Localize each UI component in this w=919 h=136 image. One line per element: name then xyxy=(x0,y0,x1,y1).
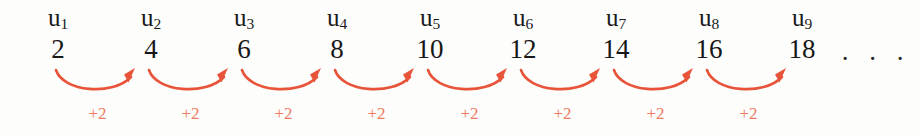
term-label-base: u xyxy=(234,4,247,31)
step-arrow-icon xyxy=(144,66,237,102)
sequence-step: +2 xyxy=(51,66,144,136)
term-label: u6 xyxy=(483,0,563,30)
step-arrow-icon xyxy=(237,66,330,102)
term-label-index: 4 xyxy=(339,15,347,32)
step-label: +2 xyxy=(702,104,795,124)
step-label: +2 xyxy=(144,104,237,124)
ellipsis: . . . xyxy=(836,36,916,67)
term-value: 2 xyxy=(18,30,98,63)
sequence-term: u816 xyxy=(669,0,749,63)
term-value: 8 xyxy=(297,30,377,63)
term-label-index: 6 xyxy=(525,15,533,32)
step-arrow-icon xyxy=(516,66,609,102)
sequence-step: +2 xyxy=(237,66,330,136)
term-value: 10 xyxy=(390,30,470,63)
term-label-base: u xyxy=(699,4,712,31)
step-arrow-icon xyxy=(702,66,795,102)
sequence-step: +2 xyxy=(144,66,237,136)
sequence-term: u714 xyxy=(576,0,656,63)
term-label: u3 xyxy=(204,0,284,30)
step-arrow-icon xyxy=(51,66,144,102)
step-arrow-icon xyxy=(423,66,516,102)
term-label: u7 xyxy=(576,0,656,30)
step-arrow-icon xyxy=(609,66,702,102)
term-value: 6 xyxy=(204,30,284,63)
term-label-base: u xyxy=(420,4,433,31)
term-label: u5 xyxy=(390,0,470,30)
term-label: u4 xyxy=(297,0,377,30)
sequence-term: u48 xyxy=(297,0,377,63)
sequence-step: +2 xyxy=(330,66,423,136)
step-label: +2 xyxy=(51,104,144,124)
sequence-term: u12 xyxy=(18,0,98,63)
term-label-index: 1 xyxy=(60,15,68,32)
term-label-index: 3 xyxy=(246,15,254,32)
term-label-base: u xyxy=(513,4,526,31)
term-label-index: 9 xyxy=(804,15,812,32)
sequence-step: +2 xyxy=(516,66,609,136)
term-label-index: 2 xyxy=(153,15,161,32)
sequence-step: +2 xyxy=(702,66,795,136)
sequence-step: +2 xyxy=(609,66,702,136)
term-label-base: u xyxy=(327,4,340,31)
term-label: u2 xyxy=(111,0,191,30)
term-label-index: 5 xyxy=(432,15,440,32)
term-value: 18 xyxy=(762,30,842,63)
term-label: u9 xyxy=(762,0,842,30)
term-value: 16 xyxy=(669,30,749,63)
term-value: 14 xyxy=(576,30,656,63)
term-label-base: u xyxy=(48,4,61,31)
step-label: +2 xyxy=(423,104,516,124)
term-label-base: u xyxy=(141,4,154,31)
term-label-base: u xyxy=(792,4,805,31)
term-label-index: 7 xyxy=(618,15,626,32)
sequence-term: u36 xyxy=(204,0,284,63)
term-label: u8 xyxy=(669,0,749,30)
step-label: +2 xyxy=(330,104,423,124)
step-label: +2 xyxy=(609,104,702,124)
sequence-diagram: u12u24u36u48u510u612u714u816u918. . .+2+… xyxy=(0,0,919,136)
step-label: +2 xyxy=(516,104,609,124)
sequence-term: u612 xyxy=(483,0,563,63)
sequence-term: u510 xyxy=(390,0,470,63)
sequence-term: u918 xyxy=(762,0,842,63)
term-label: u1 xyxy=(18,0,98,30)
sequence-step: +2 xyxy=(423,66,516,136)
step-arrow-icon xyxy=(330,66,423,102)
term-value: 12 xyxy=(483,30,563,63)
term-value: 4 xyxy=(111,30,191,63)
term-label-index: 8 xyxy=(711,15,719,32)
sequence-term: u24 xyxy=(111,0,191,63)
term-label-base: u xyxy=(606,4,619,31)
step-label: +2 xyxy=(237,104,330,124)
